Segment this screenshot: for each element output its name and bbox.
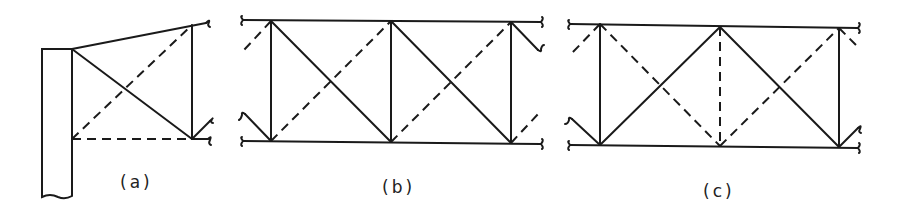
break-symbol-icon [210,118,213,123]
diagonal-dashed-stub-right [839,28,859,48]
break-symbol-icon [206,21,210,27]
diagonal-dashed-stub-left [244,21,271,50]
diagonal-solid-2 [391,21,511,143]
diagonal-solid-1 [600,27,720,145]
diagonal-solid-1 [271,21,391,142]
stub-right [839,128,858,147]
diagonal-solid [72,49,192,139]
diagonal-dashed-stub-left [572,24,600,53]
break-symbol-icon [858,143,860,153]
break-symbol-icon [858,23,860,33]
break-symbol-icon [568,141,570,150]
panel-label-b: (b) [382,177,415,197]
column [42,49,72,198]
bottom-chord [570,145,858,148]
break-symbol-icon [538,45,544,51]
break-symbol-icon [565,118,572,124]
break-symbol-icon [541,139,543,149]
stub-right [511,22,538,50]
diagonal-dashed [72,25,192,139]
break-symbol-icon [541,17,543,27]
top-chord [570,24,858,28]
break-symbol-icon [239,113,245,120]
break-symbol-icon [241,16,243,25]
diagonal-dashed-stub-right [511,113,539,143]
break-symbol-icon [568,20,570,29]
stub-member [192,121,210,139]
panel-label-c: (c) [703,181,735,201]
break-symbol-icon [241,137,243,146]
stub-left [572,119,600,145]
panel-b [239,16,544,149]
panel-label-a: (a) [120,172,153,192]
break-symbol-icon [858,126,861,133]
break-symbol-icon [208,137,211,145]
stub-left [245,114,271,141]
top-chord [72,23,206,49]
panel-c [565,20,861,153]
